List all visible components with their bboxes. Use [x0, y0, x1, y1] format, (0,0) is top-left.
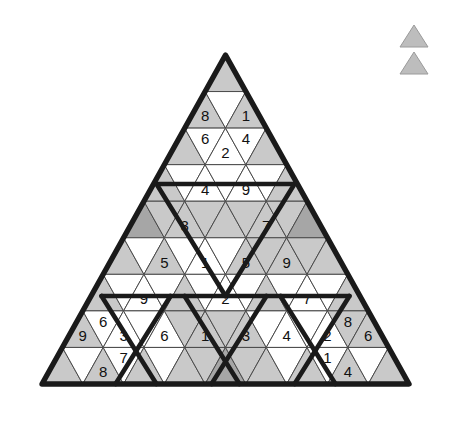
cell-digit: 6: [99, 313, 107, 330]
cell-digit: 2: [221, 144, 229, 161]
cell-digit: 1: [242, 107, 250, 124]
cell-digit: 8: [344, 313, 352, 330]
cell-digit: 4: [344, 363, 352, 380]
cell-digit: 4: [242, 130, 250, 147]
cell-digit: 6: [364, 327, 372, 344]
cell-digit: 7: [303, 290, 311, 307]
cell-layer[interactable]: [42, 55, 409, 384]
legend-triangle-lower-icon: [400, 52, 428, 74]
legend-icons: [400, 25, 428, 74]
cell-digit: 5: [160, 254, 168, 271]
triangular-sudoku-grid[interactable]: 816244937515992796361342868714: [0, 0, 451, 429]
legend-triangle-upper-icon: [400, 25, 428, 47]
cell-digit: 8: [99, 363, 107, 380]
cell-digit: 9: [79, 327, 87, 344]
cell-digit: 6: [160, 327, 168, 344]
cell-digit: 9: [282, 254, 290, 271]
cell-digit: 4: [282, 327, 290, 344]
cell-digit: 8: [201, 107, 209, 124]
cell-digit: 9: [140, 290, 148, 307]
puzzle-container: 816244937515992796361342868714: [0, 0, 451, 429]
cell-digit: 6: [201, 130, 209, 147]
